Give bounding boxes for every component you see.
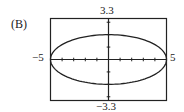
axes — [51, 19, 167, 101]
graph-window — [0, 0, 184, 112]
